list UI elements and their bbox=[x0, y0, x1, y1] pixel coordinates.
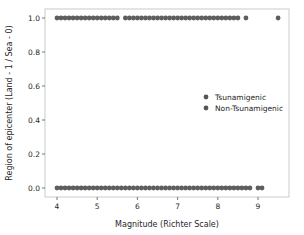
y-tick-label: 1.0 bbox=[28, 14, 40, 23]
x-tick-label: 5 bbox=[95, 202, 100, 211]
x-axis-label: Magnitude (Richter Scale) bbox=[115, 220, 219, 229]
legend-label-non-tsunamigenic: Non-Tsunamigenic bbox=[215, 104, 283, 113]
data-point bbox=[276, 16, 281, 21]
data-point bbox=[248, 186, 253, 191]
y-tick-label: 0.4 bbox=[28, 116, 40, 125]
x-tick-label: 4 bbox=[55, 202, 60, 211]
plot-border bbox=[45, 9, 289, 197]
x-tick-label: 8 bbox=[215, 202, 220, 211]
data-point bbox=[260, 186, 265, 191]
legend-label-tsunamigenic: Tsunamigenic bbox=[214, 93, 266, 102]
x-tick-label: 7 bbox=[175, 202, 180, 211]
y-axis-label: Region of epicenter (Land - 1 / Sea - 0) bbox=[5, 25, 14, 180]
y-tick-label: 0.8 bbox=[28, 48, 40, 57]
x-axis-ticks: 456789 bbox=[55, 197, 261, 211]
legend-marker-tsunamigenic bbox=[204, 95, 209, 100]
scatter-chart: 0.00.20.40.60.81.0 456789 Magnitude (Ric… bbox=[0, 0, 304, 235]
data-point bbox=[236, 16, 241, 21]
data-point bbox=[244, 16, 249, 21]
x-tick-label: 9 bbox=[256, 202, 261, 211]
legend-marker-non-tsunamigenic bbox=[204, 106, 209, 111]
y-tick-label: 0.6 bbox=[28, 82, 40, 91]
plot-area bbox=[45, 9, 289, 197]
data-point bbox=[115, 16, 120, 21]
y-tick-label: 0.0 bbox=[28, 184, 40, 193]
x-tick-label: 6 bbox=[135, 202, 140, 211]
y-axis-ticks: 0.00.20.40.60.81.0 bbox=[28, 14, 45, 193]
y-tick-label: 0.2 bbox=[28, 150, 40, 159]
